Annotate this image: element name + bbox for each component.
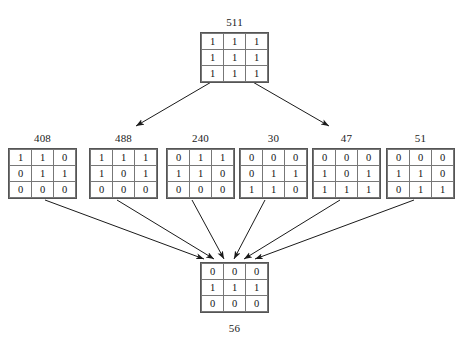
grid-table-root: 111111111 — [201, 33, 268, 82]
grid-middle: 000101111 — [312, 148, 381, 199]
grid-middle-row: 011 — [168, 150, 234, 166]
grid-table-middle: 000101111 — [313, 149, 380, 198]
grid-middle-cell: 0 — [168, 182, 190, 198]
grid-middle-row: 110 — [10, 150, 76, 166]
grid-middle-cell: 1 — [263, 182, 285, 198]
grid-middle-cell: 0 — [336, 166, 358, 182]
grid-middle-cell: 1 — [54, 166, 76, 182]
grid-middle: 111101000 — [89, 148, 158, 199]
grid-middle-cell: 0 — [241, 150, 263, 166]
grid-middle-cell: 1 — [314, 166, 336, 182]
grid-middle-cell: 1 — [168, 166, 190, 182]
node-middle-488[interactable]: 488111101000 — [89, 148, 158, 203]
grid-middle-cell: 1 — [135, 150, 157, 166]
grid-middle-cell: 0 — [285, 182, 307, 198]
grid-middle-cell: 0 — [432, 150, 454, 166]
grid-root-cell: 1 — [202, 50, 224, 66]
node-label-middle: 30 — [239, 132, 308, 144]
grid-middle-cell: 1 — [388, 166, 410, 182]
grid-middle-row: 000 — [388, 150, 454, 166]
arrows-to-bottom — [45, 200, 414, 259]
grid-middle-cell: 0 — [285, 150, 307, 166]
node-bottom-56[interactable]: 000111000 56 — [200, 262, 269, 317]
grid-root-cell: 1 — [224, 66, 246, 82]
grid-table-middle: 000110011 — [387, 149, 454, 198]
node-label-middle: 47 — [312, 132, 381, 144]
grid-middle-cell: 0 — [10, 166, 32, 182]
grid-root-cell: 1 — [246, 34, 268, 50]
grid-middle-cell: 1 — [241, 182, 263, 198]
diagram-canvas: 511 111111111 40811001100048811110100024… — [0, 0, 458, 337]
grid-root-row: 111 — [202, 66, 268, 82]
grid-bottom-row: 000 — [202, 264, 268, 280]
arrow-to-bottom — [244, 200, 340, 259]
grid-table-middle: 011110000 — [167, 149, 234, 198]
grid-bottom-cell: 0 — [202, 264, 224, 280]
grid-middle-cell: 0 — [32, 182, 54, 198]
grid-middle-row: 011 — [388, 182, 454, 198]
node-middle-47[interactable]: 47000101111 — [312, 148, 381, 203]
node-middle-51[interactable]: 51000110011 — [386, 148, 455, 203]
grid-middle-cell: 0 — [358, 150, 380, 166]
arrow-to-bottom — [255, 200, 414, 259]
node-middle-240[interactable]: 240011110000 — [166, 148, 235, 203]
grid-middle-cell: 1 — [91, 150, 113, 166]
grid-middle-cell: 1 — [410, 166, 432, 182]
grid-bottom-cell: 0 — [202, 296, 224, 312]
grid-middle-cell: 1 — [410, 182, 432, 198]
grid-middle-cell: 0 — [91, 182, 113, 198]
grid-middle-cell: 1 — [285, 166, 307, 182]
grid-bottom-cell: 1 — [224, 280, 246, 296]
grid-middle-cell: 1 — [32, 150, 54, 166]
grid-middle-cell: 0 — [432, 166, 454, 182]
grid-middle-cell: 0 — [135, 182, 157, 198]
grid-middle-cell: 0 — [212, 182, 234, 198]
grid-middle: 011110000 — [166, 148, 235, 199]
node-root-511[interactable]: 511 111111111 — [200, 32, 269, 87]
grid-table-middle: 000011110 — [240, 149, 307, 198]
grid-middle-cell: 0 — [10, 182, 32, 198]
grid-root-cell: 1 — [224, 50, 246, 66]
grid-bottom-cell: 0 — [224, 264, 246, 280]
grid-middle-row: 000 — [91, 182, 157, 198]
node-middle-408[interactable]: 408110011000 — [8, 148, 77, 203]
grid-middle-row: 011 — [10, 166, 76, 182]
grid-middle-cell: 0 — [314, 150, 336, 166]
node-label-middle: 51 — [386, 132, 455, 144]
grid-middle-cell: 0 — [388, 182, 410, 198]
grid-middle-cell: 1 — [113, 150, 135, 166]
grid-bottom-cell: 1 — [246, 280, 268, 296]
grid-bottom: 000111000 — [200, 262, 269, 313]
node-label-middle: 240 — [166, 132, 235, 144]
grid-middle: 000011110 — [239, 148, 308, 199]
grid-bottom-cell: 0 — [246, 264, 268, 280]
arrows-from-root — [136, 81, 329, 126]
grid-middle-row: 000 — [168, 182, 234, 198]
grid-bottom-cell: 0 — [224, 296, 246, 312]
arrow-to-bottom — [234, 200, 265, 259]
grid-bottom-cell: 1 — [202, 280, 224, 296]
grid-middle-cell: 0 — [190, 182, 212, 198]
node-label-middle: 408 — [8, 132, 77, 144]
grid-middle-row: 000 — [314, 150, 380, 166]
grid-middle: 110011000 — [8, 148, 77, 199]
grid-middle-cell: 1 — [314, 182, 336, 198]
grid-middle-cell: 1 — [432, 182, 454, 198]
arrow-from-root — [251, 81, 329, 126]
grid-middle-cell: 0 — [241, 166, 263, 182]
grid-middle-cell: 0 — [168, 150, 190, 166]
grid-middle-cell: 0 — [336, 150, 358, 166]
grid-middle-row: 000 — [10, 182, 76, 198]
grid-middle-cell: 0 — [263, 150, 285, 166]
grid-root-cell: 1 — [202, 66, 224, 82]
node-middle-30[interactable]: 30000011110 — [239, 148, 308, 203]
grid-middle-cell: 0 — [113, 182, 135, 198]
grid-middle-row: 111 — [314, 182, 380, 198]
grid-table-middle: 111101000 — [90, 149, 157, 198]
grid-bottom-row: 000 — [202, 296, 268, 312]
grid-root-cell: 1 — [224, 34, 246, 50]
grid-middle-cell: 0 — [54, 182, 76, 198]
arrow-from-root — [136, 81, 213, 126]
arrow-to-bottom — [117, 200, 214, 259]
grid-middle: 000110011 — [386, 148, 455, 199]
